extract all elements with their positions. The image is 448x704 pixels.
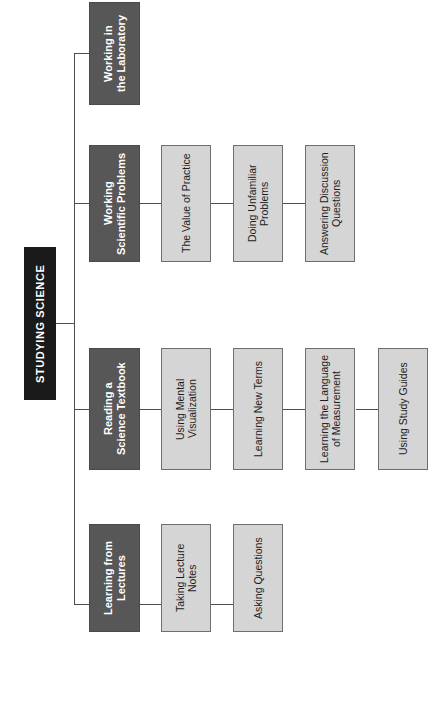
- branch-label-line2: Scientific Problems: [115, 152, 127, 254]
- branch-label-line2: Science Textbook: [115, 363, 127, 456]
- branch-node-reading-a-science-textbook[interactable]: Reading a Science Textbook: [89, 348, 140, 470]
- branch-node-label: Reading a Science Textbook: [100, 363, 130, 456]
- branch-label-line2: Lectures: [115, 555, 127, 601]
- leaf-node-label: Asking Questions: [250, 537, 266, 619]
- leaf-node-answering-discussion-questions[interactable]: Answering Discussion Questions: [305, 145, 355, 262]
- leaf-label-line1: Learning the Language: [318, 355, 330, 463]
- leaf-label-line2: Notes: [186, 564, 198, 591]
- branch-label-line1: Working in: [102, 25, 114, 82]
- leaf-chain-line-textbook-1: [140, 409, 161, 410]
- leaf-label-line2: of Measurement: [330, 371, 342, 447]
- branch-label-line1: Reading a: [102, 383, 114, 436]
- leaf-label-line1: Using Mental: [174, 378, 186, 439]
- leaf-chain-line-problems-3: [283, 203, 305, 204]
- branch-node-working-scientific-problems[interactable]: Working Scientific Problems: [89, 145, 140, 262]
- leaf-node-label: Learning the Language of Measurement: [316, 355, 345, 463]
- leaf-label-line1: Taking Lecture: [174, 544, 186, 612]
- branch-connector-line-textbook: [74, 409, 89, 410]
- branch-node-working-in-the-laboratory[interactable]: Working in the Laboratory: [89, 2, 140, 105]
- leaf-node-label: Using Mental Visualization: [172, 378, 201, 439]
- leaf-node-label: The Value of Practice: [178, 154, 194, 254]
- branch-connector-line-lab: [74, 53, 89, 54]
- leaf-node-label: Learning New Terms: [250, 361, 266, 457]
- leaf-node-taking-lecture-notes[interactable]: Taking Lecture Notes: [161, 524, 211, 632]
- leaf-node-label: Doing Unfamiliar Problems: [244, 165, 273, 243]
- studying-science-tree-diagram: STUDYING SCIENCE Working in the Laborato…: [0, 0, 448, 704]
- branch-connector-line-lectures: [74, 604, 89, 605]
- branch-node-label: Learning from Lectures: [100, 541, 130, 615]
- branch-node-label: Working Scientific Problems: [100, 152, 130, 254]
- root-connector-line: [56, 323, 75, 324]
- trunk-vertical-line: [74, 53, 75, 604]
- leaf-chain-line-textbook-3: [283, 409, 305, 410]
- leaf-label-line2: Visualization: [186, 380, 198, 439]
- branch-label-line1: Working: [102, 182, 114, 226]
- leaf-chain-line-problems-1: [140, 203, 161, 204]
- leaf-label-line2: Questions: [330, 180, 342, 227]
- leaf-node-doing-unfamiliar-problems[interactable]: Doing Unfamiliar Problems: [233, 145, 283, 262]
- leaf-node-learning-the-language-of-measurement[interactable]: Learning the Language of Measurement: [305, 348, 355, 470]
- root-node-label: STUDYING SCIENCE: [32, 264, 49, 382]
- leaf-label-line2: Problems: [258, 181, 270, 225]
- branch-node-learning-from-lectures[interactable]: Learning from Lectures: [89, 524, 140, 632]
- branch-node-label: Working in the Laboratory: [100, 15, 130, 92]
- leaf-label-line1: Answering Discussion: [318, 152, 330, 255]
- leaf-chain-line-lectures-2: [211, 604, 233, 605]
- leaf-node-label: Taking Lecture Notes: [172, 544, 201, 612]
- leaf-node-label: Using Study Guides: [395, 363, 411, 456]
- leaf-node-asking-questions[interactable]: Asking Questions: [233, 524, 283, 632]
- leaf-chain-line-textbook-4: [356, 409, 378, 410]
- branch-label-line1: Learning from: [102, 541, 114, 615]
- branch-label-line2: the Laboratory: [115, 15, 127, 92]
- leaf-chain-line-textbook-2: [211, 409, 233, 410]
- leaf-node-using-study-guides[interactable]: Using Study Guides: [378, 348, 428, 470]
- leaf-chain-line-lectures-1: [140, 604, 161, 605]
- leaf-node-label: Answering Discussion Questions: [316, 152, 345, 255]
- leaf-node-the-value-of-practice[interactable]: The Value of Practice: [161, 145, 211, 262]
- leaf-label-line1: Doing Unfamiliar: [246, 165, 258, 243]
- root-node-studying-science[interactable]: STUDYING SCIENCE: [24, 247, 56, 400]
- branch-connector-line-problems: [74, 203, 89, 204]
- leaf-node-learning-new-terms[interactable]: Learning New Terms: [233, 348, 283, 470]
- leaf-node-using-mental-visualization[interactable]: Using Mental Visualization: [161, 348, 211, 470]
- leaf-chain-line-problems-2: [211, 203, 233, 204]
